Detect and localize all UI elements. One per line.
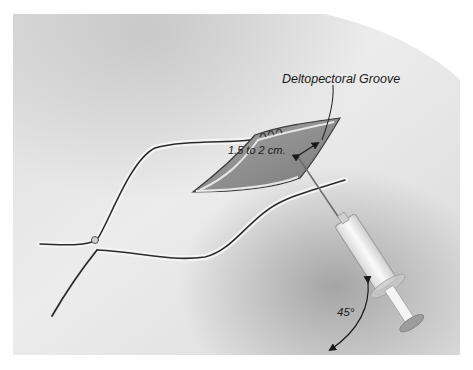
distance-label: 1.5 to 2 cm. bbox=[228, 144, 285, 156]
medical-illustration: Deltopectoral Groove 1.5 to 2 cm. 45° bbox=[0, 0, 473, 370]
vessel-junction bbox=[92, 237, 99, 244]
angle-label: 45° bbox=[337, 306, 355, 318]
deltopectoral-groove-label: Deltopectoral Groove bbox=[282, 72, 400, 86]
